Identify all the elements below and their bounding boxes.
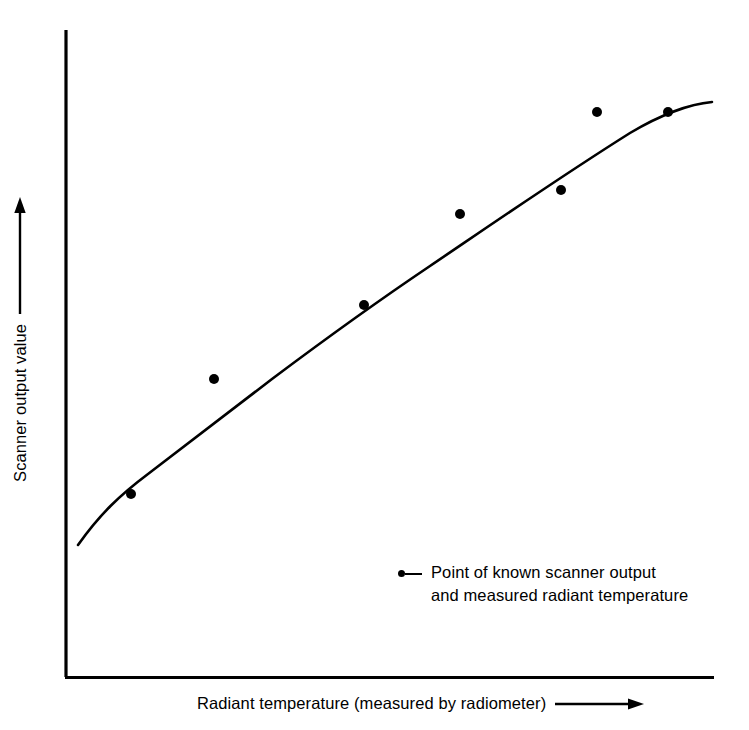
data-point [359,300,369,310]
plot-area [0,0,749,730]
legend-label: Point of known scanner output and measur… [431,561,688,607]
legend-label-line2: and measured radiant temperature [431,586,688,604]
legend-rule-icon [405,573,422,575]
data-point [592,107,602,117]
data-point [209,374,219,384]
data-point [556,185,566,195]
legend-point-marker-icon [398,570,422,577]
x-axis-label: Radiant temperature (measured by radiome… [197,694,644,713]
legend-dot-icon [398,570,405,577]
chart-figure: Scanner output value Radiant temperature… [0,0,749,730]
calibration-curve [78,102,712,545]
legend-label-line1: Point of known scanner output [431,563,656,581]
data-point [126,489,136,499]
x-axis-label-text: Radiant temperature (measured by radiome… [197,694,546,713]
data-point [663,107,673,117]
legend: Point of known scanner output and measur… [398,561,688,607]
arrow-right-icon [555,697,644,711]
data-point [455,209,465,219]
